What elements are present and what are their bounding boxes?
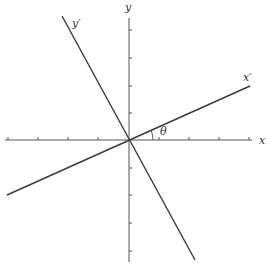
theta-label: θ [160, 125, 167, 138]
y-axis-label: y [124, 1, 132, 14]
x-axis-label: x [259, 134, 266, 147]
y-prime-label: y′ [71, 17, 81, 30]
rotated-axes-diagram: x y x′ y′ θ [0, 0, 271, 264]
x-prime-label: x′ [243, 71, 252, 84]
angle-arc [151, 130, 153, 140]
